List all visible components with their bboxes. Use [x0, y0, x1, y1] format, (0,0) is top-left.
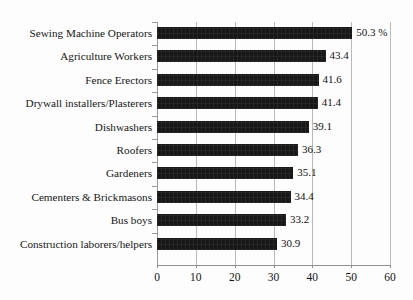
bar-value-label: 41.6 — [319, 70, 342, 89]
category-label: Bus boys — [111, 209, 152, 232]
x-axis-tick-label: 20 — [229, 268, 241, 286]
x-axis-tick-label: 50 — [345, 268, 357, 286]
bar-value-label: 43.4 — [326, 46, 349, 65]
bar-value-label: 30.9 — [277, 234, 300, 253]
bar-value-label: 50.3 % — [352, 23, 387, 42]
bar-row: 50.3 % — [157, 22, 391, 45]
x-axis-tick-label: 0 — [154, 268, 160, 286]
bar[interactable] — [157, 74, 319, 86]
category-label: Roofers — [117, 139, 152, 162]
x-axis-tick-labels: 0 10 20 30 40 50 60 — [157, 268, 391, 290]
bar[interactable] — [157, 27, 352, 39]
x-axis-tick-label: 40 — [307, 268, 319, 286]
bar[interactable] — [157, 238, 277, 250]
bar-row: 39.1 — [157, 116, 391, 139]
bar-value-label: 34.4 — [291, 187, 314, 206]
category-label: Sewing Machine Operators — [30, 22, 152, 45]
bar-row: 30.9 — [157, 233, 391, 256]
bar-chart: Sewing Machine Operators Agriculture Wor… — [0, 0, 413, 300]
bar-value-label: 35.1 — [293, 163, 316, 182]
category-label: Gardeners — [106, 162, 152, 185]
bar-row: 36.3 — [157, 139, 391, 162]
x-axis-tick-label: 10 — [190, 268, 202, 286]
bar-series: 50.3 % 43.4 41.6 41.4 39.1 36.3 35.1 34 — [157, 22, 391, 265]
bar-row: 33.2 — [157, 209, 391, 232]
category-label: Cementers & Brickmasons — [31, 186, 152, 209]
category-label: Construction laborers/helpers — [20, 233, 152, 256]
bar-row: 43.4 — [157, 45, 391, 68]
bar-value-label: 41.4 — [318, 93, 341, 112]
category-label: Dishwashers — [95, 116, 152, 139]
bar-value-label: 33.2 — [286, 210, 309, 229]
category-label: Agriculture Workers — [60, 45, 152, 68]
category-label: Fence Erectors — [85, 69, 152, 92]
bar[interactable] — [157, 144, 298, 156]
bar-row: 35.1 — [157, 162, 391, 185]
bar[interactable] — [157, 214, 286, 226]
bar-row: 41.4 — [157, 92, 391, 115]
bar-value-label: 39.1 — [309, 117, 332, 136]
bar[interactable] — [157, 167, 293, 179]
bar[interactable] — [157, 121, 309, 133]
bar[interactable] — [157, 97, 318, 109]
x-axis-tick-label: 30 — [268, 268, 280, 286]
category-label: Drywall installers/Plasterers — [26, 92, 152, 115]
bar-row: 34.4 — [157, 186, 391, 209]
bar[interactable] — [157, 50, 326, 62]
bar-row: 41.6 — [157, 69, 391, 92]
bar[interactable] — [157, 191, 291, 203]
category-label-list: Sewing Machine Operators Agriculture Wor… — [0, 22, 152, 265]
bar-value-label: 36.3 — [298, 140, 321, 159]
x-axis-tick-label: 60 — [384, 268, 396, 286]
